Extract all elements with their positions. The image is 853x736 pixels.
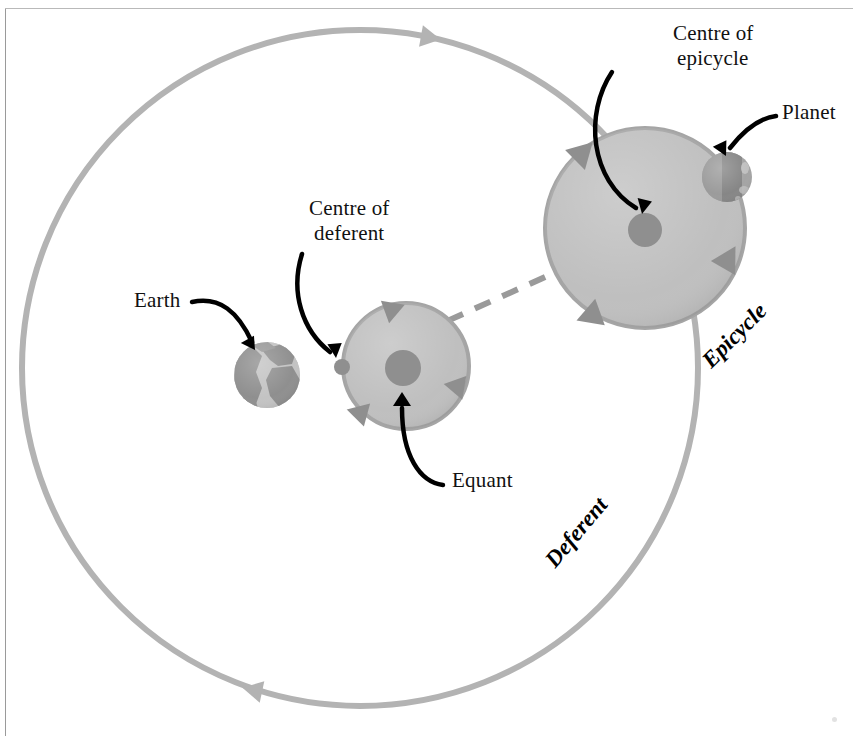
deferent-direction-arrow-bottom — [240, 677, 264, 703]
centre-of-epicycle-marker — [628, 213, 662, 247]
diagram-canvas: Earth Centre of deferent Centre of epicy… — [0, 0, 853, 736]
equant-marker — [385, 350, 421, 386]
planet-leader-arrow — [712, 116, 776, 156]
centre-of-deferent-leader-arrow — [297, 254, 343, 358]
label-planet: Planet — [782, 101, 836, 125]
label-centre-of-epicycle-line1: Centre of — [673, 22, 754, 46]
earth-leader-arrow — [192, 301, 257, 350]
page-corner-mark — [832, 717, 837, 722]
label-centre-of-epicycle-line2: epicycle — [677, 47, 749, 71]
centre-of-deferent-marker — [334, 359, 350, 375]
label-earth: Earth — [134, 289, 180, 313]
ptolemaic-model-diagram — [0, 0, 853, 736]
label-centre-of-deferent-line2: deferent — [314, 222, 384, 246]
label-equant: Equant — [452, 469, 513, 493]
label-centre-of-deferent-line1: Centre of — [309, 197, 390, 221]
earth-sphere — [234, 342, 300, 410]
